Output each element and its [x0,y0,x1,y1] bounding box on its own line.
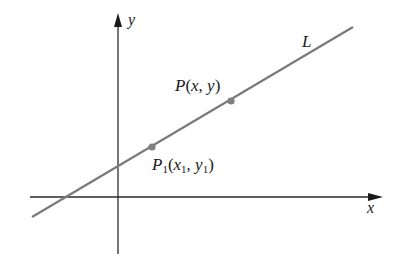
point-P-marker [227,97,234,104]
x-axis-label: x [366,199,374,216]
line-label: L [301,32,311,51]
y-axis-arrow-icon [114,13,122,27]
line-L [32,27,353,217]
point-P1-label: P1(x1, y1) [151,155,214,175]
y-axis [114,13,122,254]
x-axis [30,193,383,201]
coordinate-diagram: y x L P(x, y) P1(x1, y1) [0,0,401,259]
point-P1-marker [148,143,155,150]
y-axis-label: y [126,11,136,29]
point-P-label: P(x, y) [174,76,220,95]
